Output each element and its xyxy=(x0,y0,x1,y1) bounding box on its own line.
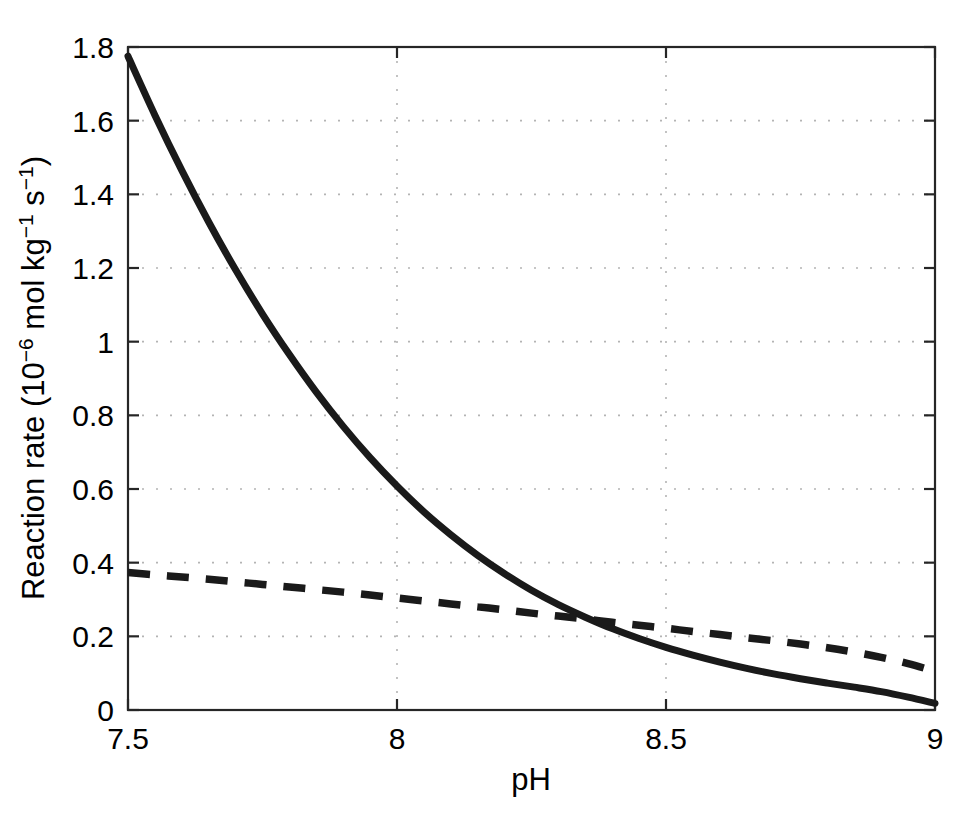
y-axis-title-part-mid: mol kg xyxy=(16,238,51,338)
x-axis-title: pH xyxy=(511,762,551,797)
y-axis-title-exp-3: −1 xyxy=(14,166,37,190)
x-tick-label: 8.5 xyxy=(645,722,687,755)
reaction-rate-vs-ph-plot: 7.588.59 00.20.40.60.811.21.41.61.8 pH R… xyxy=(0,0,979,818)
y-tick-label: 0 xyxy=(97,694,114,727)
x-tick-label: 8 xyxy=(389,722,406,755)
y-tick-label: 0.6 xyxy=(72,473,114,506)
chart-figure: 7.588.59 00.20.40.60.811.21.41.61.8 pH R… xyxy=(0,0,979,818)
figure-background xyxy=(0,0,979,818)
y-tick-label: 1.2 xyxy=(72,252,114,285)
y-tick-label: 1 xyxy=(97,326,114,359)
y-axis-title-part-main: Reaction rate (10 xyxy=(16,362,51,600)
x-tick-label: 9 xyxy=(927,722,944,755)
y-tick-label: 1.4 xyxy=(72,178,114,211)
y-axis-title-part-mid2: s xyxy=(16,190,51,214)
y-tick-label: 0.8 xyxy=(72,399,114,432)
y-tick-label: 1.6 xyxy=(72,105,114,138)
y-axis-title-exp-1: −6 xyxy=(14,338,37,362)
y-tick-label: 1.8 xyxy=(72,31,114,64)
y-tick-label: 0.4 xyxy=(72,547,114,580)
y-tick-label: 0.2 xyxy=(72,620,114,653)
y-axis-title-exp-2: −1 xyxy=(14,214,37,238)
y-axis-title-part-end: ) xyxy=(16,156,51,166)
